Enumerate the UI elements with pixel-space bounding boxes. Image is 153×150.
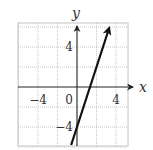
grid <box>18 23 128 147</box>
line-graph: x y −4 0 4 4 −4 <box>0 0 153 150</box>
y-axis-label: y <box>71 5 81 21</box>
x-tick-label-0: 0 <box>65 93 73 107</box>
x-tick-label-neg4: −4 <box>29 93 47 107</box>
plot-border <box>18 23 128 146</box>
x-tick-label-4: 4 <box>112 93 120 107</box>
y-tick-label-4: 4 <box>65 40 73 54</box>
x-axis-label: x <box>139 79 147 95</box>
y-tick-label-neg4: −4 <box>55 120 73 134</box>
